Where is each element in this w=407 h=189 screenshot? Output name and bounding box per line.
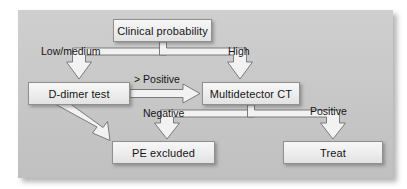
edge-label-negative: Negative [143, 107, 184, 119]
node-clinical-probability[interactable]: Clinical probability [113, 19, 212, 42]
edge-label-high: High [228, 45, 250, 57]
edge-label-positive: Positive [310, 105, 347, 117]
node-d-dimer-test[interactable]: D-dimer test [28, 82, 130, 105]
edge-label-low-medium: Low/medium [41, 45, 101, 57]
node-multidetector-ct[interactable]: Multidetector CT [202, 82, 300, 105]
flowchart-canvas: Clinical probability D-dimer test Multid… [0, 0, 407, 189]
node-clinical-probability-label: Clinical probability [117, 25, 208, 37]
node-multidetector-ct-label: Multidetector CT [210, 88, 292, 100]
node-treat-label: Treat [320, 147, 346, 159]
node-d-dimer-test-label: D-dimer test [48, 88, 109, 100]
node-pe-excluded-label: PE excluded [132, 147, 195, 159]
edge-label-greater-positive: > Positive [134, 73, 180, 85]
node-treat[interactable]: Treat [283, 141, 383, 164]
node-pe-excluded[interactable]: PE excluded [112, 141, 215, 164]
